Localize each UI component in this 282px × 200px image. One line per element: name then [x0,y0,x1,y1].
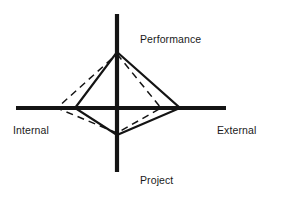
axis-label-external: External [217,124,256,136]
dashed-profile-polygon [57,54,161,133]
axes-and-profiles-plot [0,0,282,200]
axis-label-internal: Internal [13,124,49,136]
competing-values-diagram: Performance External Project Internal [0,0,282,200]
axis-label-performance: Performance [140,33,201,45]
axis-label-project: Project [140,174,173,186]
